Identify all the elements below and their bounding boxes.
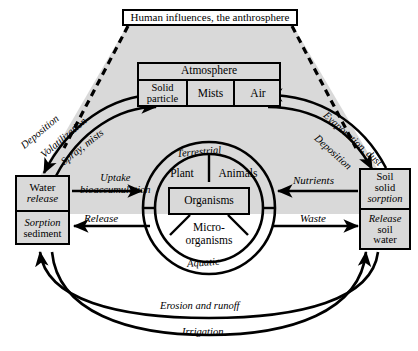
atmosphere-header-label: Atmosphere <box>137 62 281 79</box>
water-release-line2: release <box>27 192 58 204</box>
flow-label-waste: Waste <box>300 212 326 224</box>
micro-line1: Micro- <box>193 221 225 233</box>
ring-label-aquatic: Aquatic <box>187 256 220 269</box>
atmosphere-cell-solid-particle: Solid particle <box>139 81 186 107</box>
sector-label-plant: Plant <box>159 166 205 182</box>
sector-label-microorganisms: Micro- organisms <box>170 219 248 249</box>
flow-label-erosion-and-runoff: Erosion and runoff <box>160 300 240 311</box>
atmosphere-cell-mists: Mists <box>188 81 233 107</box>
uptake-line1: Uptake <box>100 172 130 183</box>
organisms-core-label: Organisms <box>168 187 250 215</box>
sorption-line1: Sorption <box>24 217 60 228</box>
micro-line2: organisms <box>185 234 232 246</box>
water-release-line1: Water <box>29 181 55 193</box>
soil-line1: Soil <box>377 171 394 182</box>
sector-label-animals: Animals <box>212 166 264 182</box>
flow-label-release: Release <box>84 212 118 224</box>
flow-label-nutrients: Nutrients <box>293 174 334 186</box>
release-line3: water <box>373 234 396 245</box>
soil-line3: sorption <box>367 193 402 204</box>
release-line1: Release <box>369 213 402 224</box>
atmosphere-cell-air: Air <box>235 81 281 107</box>
water-release-label: Water release <box>15 176 70 210</box>
release-line2: soil <box>377 224 392 235</box>
flow-label-irrigation: Irrigation <box>182 326 223 337</box>
sorption-sediment-label: Sorption sediment <box>15 212 70 245</box>
soil-solid-sorption-label: Soil solid sorption <box>359 169 411 208</box>
soil-line2: solid <box>375 182 395 193</box>
diagram-canvas: Human influences, the anthrosphere Atmos… <box>0 0 418 351</box>
uptake-line2: bioaccumulation <box>80 184 151 195</box>
sorption-line2: sediment <box>24 228 62 239</box>
flow-label-uptake: Uptake bioaccumulation <box>80 172 151 195</box>
anthrosphere-label: Human influences, the anthrosphere <box>122 9 298 26</box>
release-soil-water-label: Release soil water <box>359 210 411 250</box>
